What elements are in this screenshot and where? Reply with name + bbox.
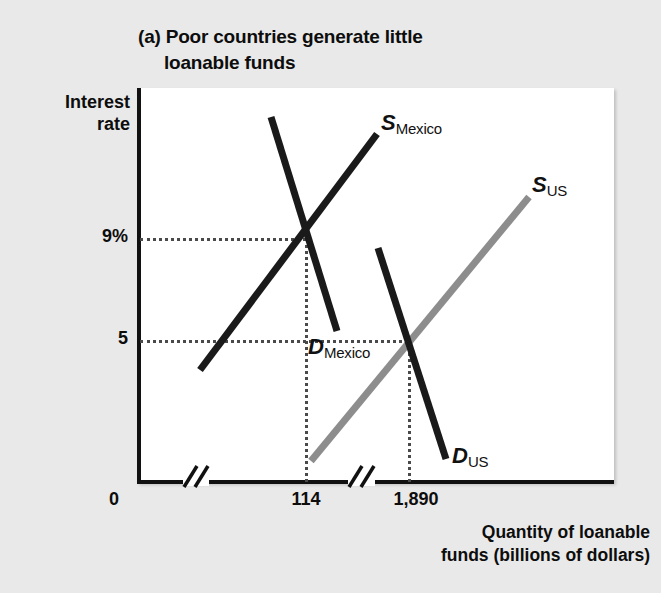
curve-label-d-us: DUS [452, 443, 488, 469]
curve-label-s-mexico-sub: Mexico [396, 120, 442, 137]
curve-label-s-us: SUS [532, 172, 567, 198]
y-axis-title-line2: rate [18, 114, 130, 136]
figure-panel-a: (a) Poor countries generate little loana… [0, 0, 661, 593]
guide-line-quantity-114 [305, 238, 308, 482]
curve-label-d-mexico-sub: Mexico [324, 344, 370, 361]
guide-line-quantity-1890 [408, 340, 411, 482]
curve-label-d-us-sub: US [468, 453, 488, 470]
figure-title: (a) Poor countries generate little loana… [138, 24, 558, 75]
y-axis-title: Interest rate [18, 92, 130, 136]
x-axis-line [137, 480, 614, 484]
curve-label-s-mexico: SMexico [381, 110, 442, 136]
guide-line-rate-9 [140, 238, 306, 241]
x-tick-label-origin: 0 [94, 489, 134, 510]
y-tick-label-9: 9% [16, 226, 128, 247]
x-tick-label-114: 114 [275, 489, 337, 510]
curve-label-s-us-lead: S [532, 172, 547, 197]
curve-label-d-us-lead: D [452, 443, 468, 468]
curve-label-d-mexico: DMexico [308, 334, 370, 360]
curve-label-s-us-sub: US [547, 182, 567, 199]
y-axis-title-line1: Interest [18, 92, 130, 114]
y-tick-label-5: 5 [16, 328, 128, 349]
x-axis-title-line1: Quantity of loanable [290, 521, 650, 544]
x-axis-title: Quantity of loanable funds (billions of … [290, 521, 650, 567]
plot-area [137, 88, 614, 483]
y-axis-line [137, 88, 141, 484]
curve-label-s-mexico-lead: S [381, 110, 396, 135]
curve-label-d-mexico-lead: D [308, 334, 324, 359]
figure-title-line1: (a) Poor countries generate little [138, 26, 423, 47]
x-axis-title-line2: funds (billions of dollars) [290, 544, 650, 567]
figure-title-line2: loanable funds [138, 50, 558, 76]
x-tick-label-1890: 1,890 [370, 489, 462, 510]
